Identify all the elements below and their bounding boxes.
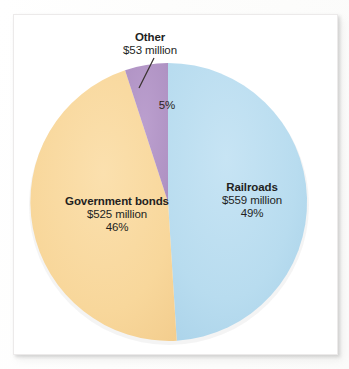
- slice-label-railroads-amount: $559 million: [196, 194, 308, 207]
- slice-label-other-name: Other: [90, 31, 210, 44]
- chart-card: Other $53 million 5% Railroads $559 mill…: [13, 14, 338, 355]
- slice-label-government-bonds: Government bonds $525 million 46%: [47, 195, 187, 234]
- slice-label-other-percent-value: 5%: [146, 99, 188, 112]
- slice-label-other: Other $53 million: [90, 31, 210, 57]
- slice-label-other-amount: $53 million: [90, 44, 210, 57]
- slice-label-railroads: Railroads $559 million 49%: [196, 181, 308, 220]
- slice-label-railroads-percent: 49%: [196, 207, 308, 220]
- slice-label-government-bonds-amount: $525 million: [47, 208, 187, 221]
- slice-label-other-percent: 5%: [146, 99, 188, 112]
- slice-label-government-bonds-percent: 46%: [47, 221, 187, 234]
- slice-label-railroads-name: Railroads: [196, 181, 308, 194]
- slice-label-government-bonds-name: Government bonds: [47, 195, 187, 208]
